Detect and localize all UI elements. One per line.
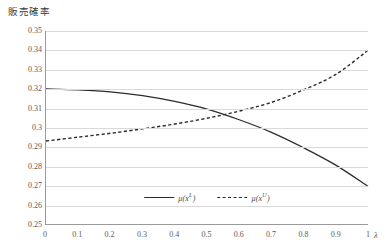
legend-label: μ(xL) [178,192,195,203]
gridline [46,89,368,90]
y-axis-tick-labels: 0.350.340.330.320.310.30.290.280.270.260… [0,31,42,225]
x-tick-label: 1 [353,231,383,239]
legend-swatch-solid [144,197,174,198]
y-tick-label: 0.29 [0,143,42,151]
y-tick-label: 0.27 [0,182,42,190]
gridline [46,50,368,51]
x-axis-label: λ [374,231,378,239]
y-tick-label: 0.31 [0,105,42,113]
legend-label: μ(xU) [252,192,270,203]
legend-swatch-dashed [218,197,248,198]
x-tick-label: 0.8 [288,231,318,239]
gridline [46,167,368,168]
x-tick-label: 0.1 [62,231,92,239]
x-tick-label: 0.5 [192,231,222,239]
gridline [46,70,368,71]
x-tick-label: 0.2 [95,231,125,239]
y-tick-label: 0.34 [0,46,42,54]
y-tick-label: 0.25 [0,221,42,229]
gridline [46,206,368,207]
x-tick-label: 0.3 [127,231,157,239]
gridline [46,128,368,129]
y-tick-label: 0.32 [0,85,42,93]
x-axis-tick-labels: 00.10.20.30.40.50.60.70.80.91 [45,231,368,243]
chart-title: 販売確率 [8,4,50,18]
legend-entry: μ(xL) [144,192,195,203]
legend-entry: μ(xU) [218,192,270,203]
y-tick-label: 0.26 [0,202,42,210]
chart-figure: 販売確率 0.350.340.330.320.310.30.290.280.27… [0,0,388,250]
x-tick-label: 0 [30,231,60,239]
gridline [46,31,368,32]
chart-legend: μ(xL)μ(xU) [140,191,274,204]
y-tick-label: 0.35 [0,27,42,35]
plot-area: μ(xL)μ(xU) [45,31,368,225]
x-tick-label: 0.7 [256,231,286,239]
gridline [46,147,368,148]
y-tick-label: 0.33 [0,66,42,74]
x-tick-label: 0.4 [159,231,189,239]
gridline [46,186,368,187]
y-tick-label: 0.3 [0,124,42,132]
x-tick-label: 0.6 [224,231,254,239]
x-tick-label: 0.9 [321,231,351,239]
series-line-lower [46,89,368,186]
gridline [46,109,368,110]
y-tick-label: 0.28 [0,163,42,171]
